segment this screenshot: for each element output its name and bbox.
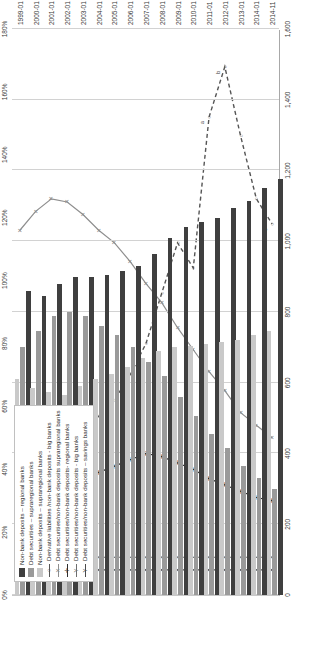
rotated-chart-wrapper: ○○○○○○○○○○○○○○○○○✕✕✕✕✕✕✕✕✕✕✕✕✕✕✕✕✕✛✛✛✛✛✛… xyxy=(0,0,334,660)
percent-axis-tick: 180% xyxy=(1,21,8,38)
percent-axis-tick: 120% xyxy=(1,209,8,226)
bar-axis-tick: 1,200 xyxy=(284,162,291,178)
category-tick: 2006-01 xyxy=(127,1,134,25)
bar-segment-debt-securities-supraregional xyxy=(194,416,199,595)
percent-axis-tick: 100% xyxy=(1,272,8,289)
bar-segment-nonbank-deposits-supraregional xyxy=(93,379,98,595)
percent-axis-tick: 0% xyxy=(1,590,8,599)
bar-segment-nonbank-deposits-supraregional xyxy=(251,335,256,595)
legend-item[interactable]: Non-bank deposits – regional banks xyxy=(18,410,27,577)
bar-axis-tick: 400 xyxy=(284,448,291,459)
legend-item-label: Debt securities/non-bank deposits- regio… xyxy=(63,424,72,561)
legend-marker-icon: ✛ xyxy=(64,564,71,577)
legend-item[interactable]: ○Derivative liabilities /non-bank deposi… xyxy=(45,410,54,577)
bar-segment-debt-securities-supraregional xyxy=(131,347,136,595)
bar-segment-debt-securities-supraregional xyxy=(99,326,104,595)
category-group xyxy=(233,30,249,595)
category-tick: 2011-01 xyxy=(206,2,213,25)
bar-segment-nonbank-deposits-supraregional xyxy=(235,340,240,595)
category-tick: 2005-01 xyxy=(111,1,118,25)
category-tick: 2008-01 xyxy=(158,1,165,25)
category-tick: 2010-01 xyxy=(190,1,197,25)
legend-marker-icon: ○ xyxy=(46,564,53,577)
category-group xyxy=(217,30,233,595)
bar-segment-debt-securities-supraregional xyxy=(178,397,183,595)
percent-axis-tick: 60% xyxy=(1,400,8,413)
percent-axis-tick: 140% xyxy=(1,146,8,163)
legend-item-label: Debt securities – supraregional banks xyxy=(27,461,36,565)
percent-axis-tick: 20% xyxy=(1,526,8,539)
bar-segment-debt-securities-supraregional xyxy=(162,376,167,595)
bar-axis-tick: 800 xyxy=(284,307,291,318)
legend-item[interactable]: ✕Debt securities/non-bank deposits supra… xyxy=(54,410,63,577)
legend-marker-icon: Y xyxy=(73,564,80,577)
bar-segment-nonbank-deposits-supraregional xyxy=(188,346,193,595)
category-tick: 2007-01 xyxy=(143,1,150,25)
bar-axis-tick: 1,600 xyxy=(284,21,291,37)
category-tick: 2002-01 xyxy=(64,1,71,25)
legend-marker-icon: ✕ xyxy=(55,564,62,577)
category-group xyxy=(154,30,170,595)
bar-segment-nonbank-deposits-supraregional xyxy=(204,344,209,595)
percent-axis-tick: 160% xyxy=(1,84,8,101)
category-tick: 2014-11 xyxy=(269,2,276,25)
legend-item[interactable]: YDebt securities/non-bank deposits – sav… xyxy=(81,410,90,577)
bar-axis-tick: 200 xyxy=(284,519,291,530)
category-group xyxy=(122,30,138,595)
category-tick: 2001-01 xyxy=(48,1,55,25)
category-tick: 2012-01 xyxy=(221,1,228,25)
bar-segment-nonbank-deposits-supraregional xyxy=(141,358,146,595)
bar-segment-nonbank-deposits-supraregional xyxy=(156,351,161,595)
legend-item[interactable]: YDebt securities/non-bank deposits - big… xyxy=(72,410,81,577)
category-group xyxy=(248,30,264,595)
legend-swatch-icon xyxy=(37,568,43,577)
bar-segment-debt-securities-supraregional xyxy=(272,489,277,595)
legend-item-label: Debt securities/non-bank deposits - big … xyxy=(72,436,81,561)
bar-segment-nonbank-deposits-supraregional xyxy=(219,342,224,595)
bar-segment-debt-securities-supraregional xyxy=(225,448,230,595)
legend-swatch-icon xyxy=(19,568,25,577)
category-group xyxy=(201,30,217,595)
bar-segment-nonbank-deposits-supraregional xyxy=(172,347,177,595)
category-tick: 2014-01 xyxy=(253,1,260,25)
category-group xyxy=(264,30,280,595)
bar-segment-debt-securities-supraregional xyxy=(115,335,120,595)
legend-item-label: Non-bank deposits – supraregional banks xyxy=(36,451,45,565)
bar-axis-tick: 1,000 xyxy=(284,233,291,249)
bar-segment-debt-securities-supraregional xyxy=(146,362,151,595)
legend-item-label: Debt securities/non-bank deposits suprar… xyxy=(54,410,63,561)
category-group xyxy=(170,30,186,595)
category-group xyxy=(107,30,123,595)
category-tick: 1999-01 xyxy=(16,1,23,25)
legend-item[interactable]: Debt securities – supraregional banks xyxy=(27,410,36,577)
category-group xyxy=(185,30,201,595)
bar-segment-nonbank-deposits-supraregional xyxy=(267,331,272,595)
gridline xyxy=(12,28,279,29)
legend-swatch-icon xyxy=(28,568,34,577)
percent-axis-tick: 40% xyxy=(1,463,8,476)
legend-item-label: Debt securities/non-bank deposits – savi… xyxy=(81,422,90,561)
legend-marker-icon: Y xyxy=(82,564,89,577)
bar-axis-tick: 0 xyxy=(284,593,291,597)
legend-item[interactable]: ✛Debt securities/non-bank deposits- regi… xyxy=(63,410,72,577)
category-tick: 2003-01 xyxy=(79,1,86,25)
chart-legend: Non-bank deposits – regional banksDebt s… xyxy=(14,405,94,582)
bar-segment-nonbank-deposits-regional xyxy=(278,179,283,595)
bar-axis-tick: 600 xyxy=(284,377,291,388)
category-group xyxy=(138,30,154,595)
category-tick: 2013-01 xyxy=(237,1,244,25)
category-tick: 2000-01 xyxy=(32,1,39,25)
bar-segment-debt-securities-supraregional xyxy=(257,478,262,595)
bar-segment-nonbank-deposits-supraregional xyxy=(109,374,114,595)
chart-canvas: ○○○○○○○○○○○○○○○○○✕✕✕✕✕✕✕✕✕✕✕✕✕✕✕✕✕✛✛✛✛✛✛… xyxy=(0,0,334,660)
legend-item-label: Derivative liabilities /non-bank deposit… xyxy=(45,422,54,561)
bar-segment-nonbank-deposits-supraregional xyxy=(125,367,130,595)
category-tick: 2004-01 xyxy=(95,1,102,25)
legend-item-label: Non-bank deposits – regional banks xyxy=(18,466,27,565)
bar-axis-tick: 1,400 xyxy=(284,92,291,108)
bar-segment-debt-securities-supraregional xyxy=(209,434,214,595)
bar-segment-debt-securities-supraregional xyxy=(241,466,246,595)
percent-axis-tick: 80% xyxy=(1,337,8,350)
category-tick: 2009-01 xyxy=(174,1,181,25)
legend-item[interactable]: Non-bank deposits – supraregional banks xyxy=(36,410,45,577)
